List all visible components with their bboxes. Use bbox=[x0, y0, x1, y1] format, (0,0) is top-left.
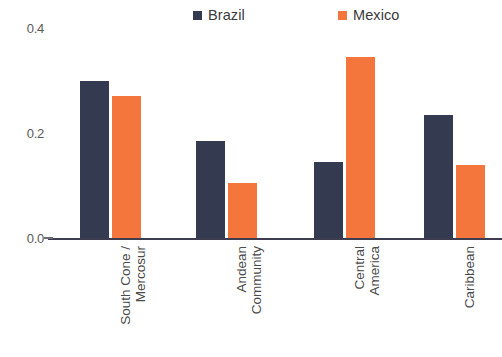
legend-label-brazil: Brazil bbox=[208, 8, 245, 23]
y-axis-tick-label: 0.2 bbox=[27, 126, 44, 141]
y-axis-tick-label: 0.0 bbox=[27, 231, 44, 246]
bar-mexico bbox=[228, 183, 257, 238]
y-axis-tick-mark bbox=[44, 237, 53, 239]
legend-square-marker-icon bbox=[338, 11, 347, 20]
plot-area: 0.00.20.4 bbox=[56, 28, 502, 240]
bar-mexico bbox=[346, 57, 375, 238]
x-axis-category-label: Central America bbox=[352, 246, 382, 356]
x-axis-category-label: Caribbean bbox=[462, 246, 477, 356]
legend-square-marker-icon bbox=[193, 11, 202, 20]
bar-chart: Brazil Mexico 0.00.20.4 South Cone / Mer… bbox=[0, 0, 502, 357]
legend-label-mexico: Mexico bbox=[353, 8, 400, 23]
bar-brazil bbox=[196, 141, 225, 238]
bar-mexico bbox=[112, 96, 141, 238]
bar-brazil bbox=[424, 115, 453, 238]
x-axis-category-label: South Cone / Mercosur bbox=[118, 246, 148, 356]
y-axis-tick-label: 0.4 bbox=[27, 21, 44, 36]
bar-brazil bbox=[314, 162, 343, 238]
x-axis-line bbox=[48, 238, 502, 240]
legend-entry-brazil: Brazil bbox=[193, 8, 245, 23]
x-axis-category-label: Andean Community bbox=[234, 246, 264, 356]
legend-entry-mexico: Mexico bbox=[338, 8, 400, 23]
bar-brazil bbox=[80, 81, 109, 239]
bar-mexico bbox=[456, 165, 485, 239]
